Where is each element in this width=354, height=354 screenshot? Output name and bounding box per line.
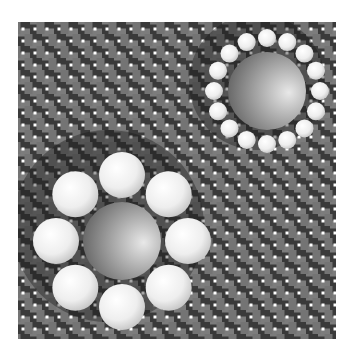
surround-sphere [278,131,296,149]
surround-sphere [205,82,223,100]
surround-sphere [258,135,276,153]
surround-sphere [209,102,227,120]
surround-sphere [238,131,256,149]
surround-sphere [278,33,296,51]
surround-sphere [33,218,79,264]
surround-sphere [146,265,192,311]
center-sphere [228,52,306,130]
surround-sphere [99,152,145,198]
surround-sphere [165,218,211,264]
surround-sphere [307,102,325,120]
surround-sphere [307,62,325,80]
surround-sphere [52,171,98,217]
center-sphere [83,202,161,280]
surround-sphere [295,45,313,63]
surround-sphere [209,62,227,80]
surround-sphere [295,119,313,137]
surround-sphere [52,265,98,311]
ebbinghaus-illusion-scene [0,0,354,354]
surround-sphere [221,119,239,137]
surround-sphere [221,45,239,63]
surround-sphere [311,82,329,100]
surround-sphere [146,171,192,217]
surround-sphere [99,284,145,330]
surround-sphere [258,29,276,47]
surround-sphere [238,33,256,51]
